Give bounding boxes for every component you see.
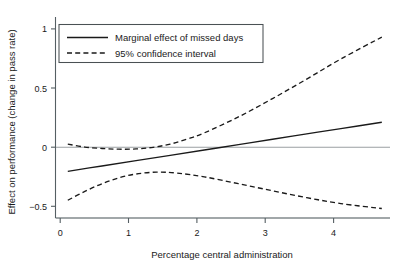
legend-label-marginal-effect: Marginal effect of missed days bbox=[115, 32, 243, 43]
legend-label-confidence-interval: 95% confidence interval bbox=[115, 48, 216, 59]
chart-figure: 1 0.5 0 −0.5 0 1 2 3 4 Percentage centra… bbox=[0, 0, 405, 271]
y-tick-label-0: 0 bbox=[42, 143, 47, 153]
line-chart: 1 0.5 0 −0.5 0 1 2 3 4 Percentage centra… bbox=[0, 0, 405, 271]
x-tick-label-0: 0 bbox=[58, 228, 63, 238]
x-tick-label-3: 3 bbox=[263, 228, 268, 238]
x-axis-title: Percentage central administration bbox=[151, 249, 293, 260]
y-axis-title: Effect on performance (change in pass ra… bbox=[6, 29, 17, 214]
x-tick-label-2: 2 bbox=[194, 228, 199, 238]
y-tick-label-1: 1 bbox=[42, 24, 47, 34]
x-tick-label-4: 4 bbox=[331, 228, 336, 238]
y-tick-label-0point5: 0.5 bbox=[34, 84, 47, 94]
x-tick-label-1: 1 bbox=[126, 228, 131, 238]
y-tick-label-minus0point5: −0.5 bbox=[29, 202, 47, 212]
series-ci-lower bbox=[68, 172, 382, 208]
legend: Marginal effect of missed days 95% confi… bbox=[59, 25, 263, 63]
